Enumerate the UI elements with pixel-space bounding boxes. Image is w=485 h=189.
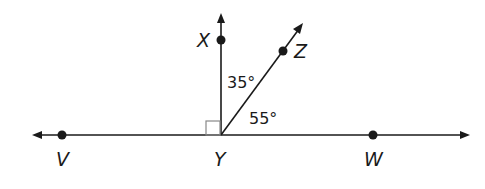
point-w — [369, 131, 378, 140]
arrowhead-left-icon — [32, 131, 42, 139]
arrowhead-right-icon — [460, 131, 470, 139]
arrowhead-up-icon — [217, 13, 225, 23]
label-v: V — [56, 148, 71, 170]
label-y: Y — [214, 148, 227, 170]
arrowhead-diagonal-icon — [293, 23, 303, 34]
angle-diagram: V Y W X Z 35° 55° — [0, 0, 485, 189]
right-angle-mark — [206, 121, 220, 135]
angle-zyw-measure: 55° — [249, 109, 277, 128]
point-x — [217, 36, 226, 45]
point-z — [279, 47, 288, 56]
angle-xyz-measure: 35° — [227, 73, 255, 92]
label-w: W — [364, 148, 384, 170]
point-v — [58, 131, 67, 140]
label-z: Z — [293, 40, 308, 62]
label-x: X — [196, 29, 211, 51]
